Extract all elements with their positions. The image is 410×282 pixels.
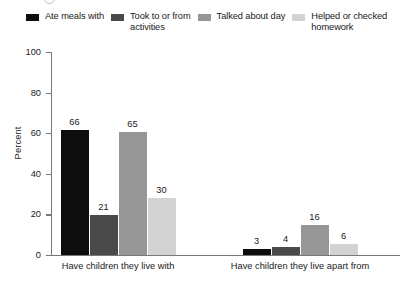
bar: [243, 249, 271, 255]
bar: [330, 244, 358, 255]
category-label: Have children they live with: [62, 261, 175, 271]
y-tick-label-40: 40: [17, 169, 41, 179]
bar: [301, 225, 329, 255]
y-tick-label-60: 60: [17, 128, 41, 138]
bar: [272, 247, 300, 255]
bar-chart-plot: Percent 020406080100 6621653034166 Have …: [0, 0, 410, 282]
bar: [61, 130, 89, 255]
x-axis-line: [51, 255, 400, 256]
y-tick-label-80: 80: [17, 88, 41, 98]
category-label: Have children they live apart from: [231, 261, 369, 271]
bar: [119, 132, 147, 255]
bar-value-label: 65: [127, 119, 137, 129]
bar: [90, 215, 118, 255]
y-tick-0: [46, 255, 51, 256]
bar-value-label: 66: [69, 117, 79, 127]
bar-value-label: 30: [156, 185, 166, 195]
y-tick-label-20: 20: [17, 209, 41, 219]
bar-value-label: 6: [341, 231, 346, 241]
bar-value-label: 21: [98, 202, 108, 212]
bar-value-label: 3: [254, 236, 259, 246]
y-tick-label-0: 0: [17, 250, 41, 260]
bars-layer: 6621653034166: [51, 52, 400, 255]
y-axis-title: Percent: [13, 113, 23, 173]
bar-value-label: 4: [283, 234, 288, 244]
y-tick-label-100: 100: [17, 47, 41, 57]
bar: [148, 198, 176, 255]
bar-value-label: 16: [309, 212, 319, 222]
